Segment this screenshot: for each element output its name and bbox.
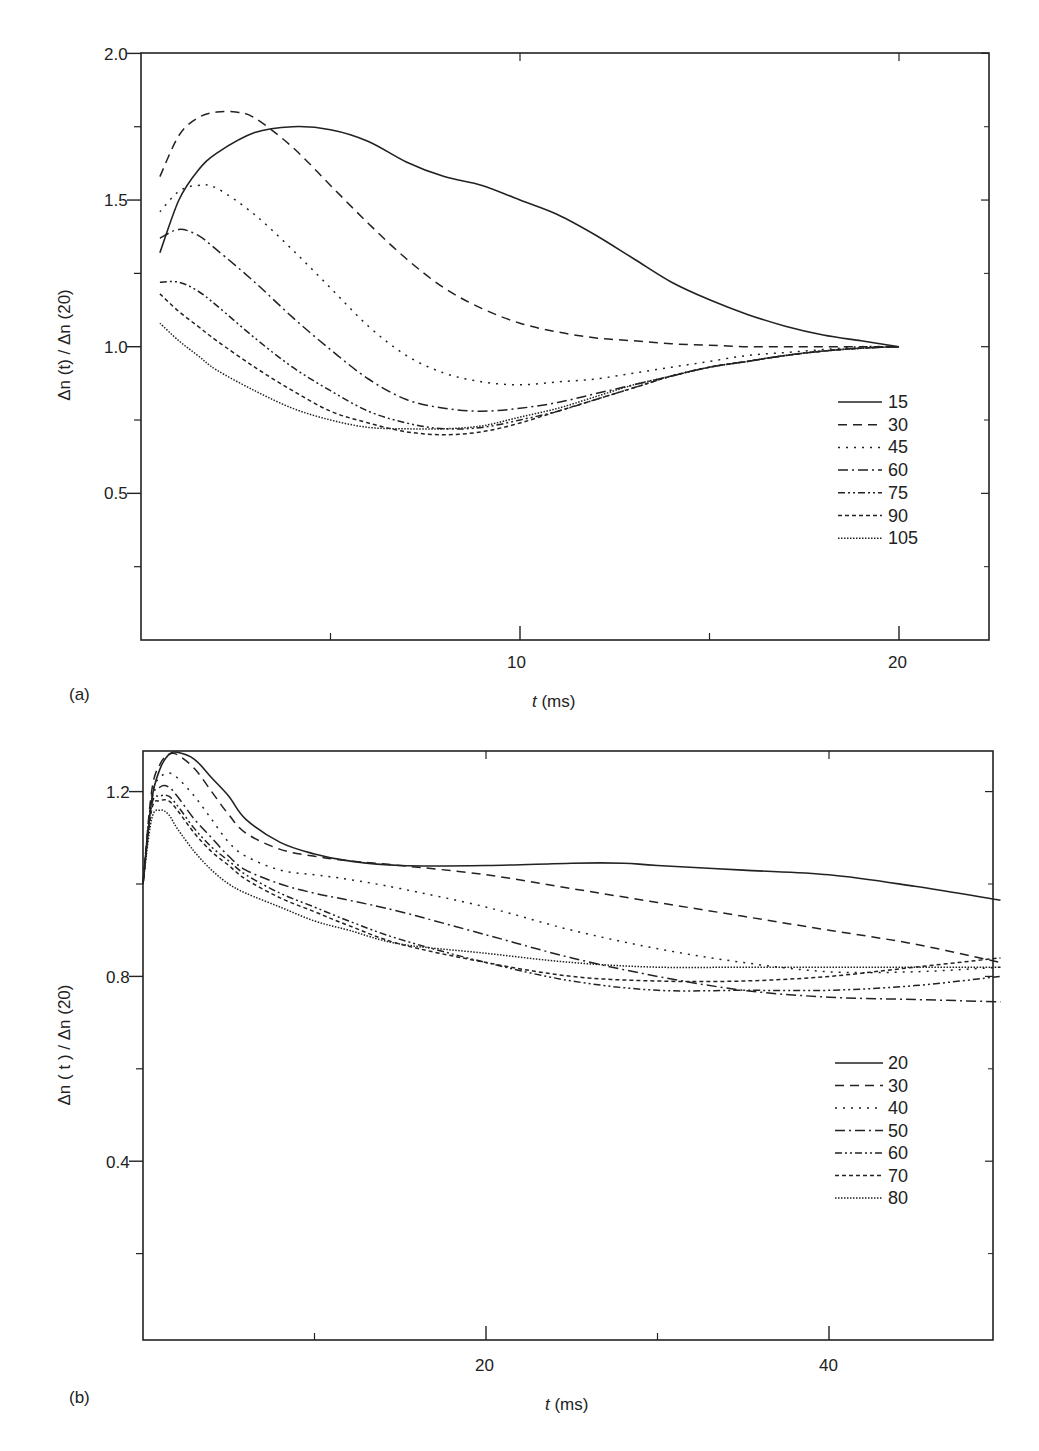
panel-label-b: (b) [69, 1388, 90, 1407]
legend-label: 30 [888, 1076, 908, 1096]
series-group-b [143, 752, 1001, 1002]
series-line-30 [143, 753, 1001, 962]
series-line-30 [160, 111, 899, 346]
legend-label: 50 [888, 1121, 908, 1141]
series-line-90 [160, 294, 899, 435]
axis-ticks-b [129, 751, 993, 1340]
legend-label: 60 [888, 1143, 908, 1163]
legend-label: 90 [888, 506, 908, 526]
series-line-75 [160, 282, 899, 430]
ytick-label: 1.0 [104, 338, 128, 357]
legend-label: 105 [888, 528, 918, 548]
y-axis-title-b: Δn ( t ) / Δn (20) [55, 985, 74, 1106]
series-line-70 [143, 800, 1001, 982]
xtick-label: 40 [819, 1356, 838, 1375]
ytick-label: 0.4 [106, 1153, 130, 1172]
figure: 153045607590105 2.0 1.5 1.0 0.5 10 20 t … [0, 0, 1039, 1451]
legend-label: 20 [888, 1053, 908, 1073]
legend-a: 153045607590105 [838, 392, 918, 548]
legend-label: 45 [888, 437, 908, 457]
series-line-105 [160, 323, 899, 429]
x-axis-title-a: t (ms) [532, 692, 575, 711]
xtick-label: 20 [475, 1356, 494, 1375]
chart-panel-a: 153045607590105 2.0 1.5 1.0 0.5 10 20 t … [55, 45, 989, 711]
x-axis-unit: (ms) [550, 1395, 589, 1414]
xtick-label: 20 [888, 653, 907, 672]
plot-frame-b [143, 751, 993, 1340]
legend-label: 80 [888, 1188, 908, 1208]
series-group-a [160, 111, 899, 434]
ytick-label: 2.0 [104, 45, 128, 64]
y-axis-title-a: Δn (t) / Δn (20) [55, 289, 74, 401]
series-line-40 [143, 773, 1001, 973]
series-line-60 [143, 795, 1001, 991]
ytick-label: 1.2 [106, 783, 130, 802]
x-axis-title-b: t (ms) [545, 1395, 588, 1414]
panel-label-a: (a) [69, 685, 90, 704]
ytick-label: 0.5 [104, 484, 128, 503]
legend-label: 40 [888, 1098, 908, 1118]
legend-label: 75 [888, 483, 908, 503]
xtick-label: 10 [507, 653, 526, 672]
legend-label: 60 [888, 460, 908, 480]
legend-label: 30 [888, 415, 908, 435]
chart-panel-b: 20304050607080 1.2 0.8 0.4 20 40 t (ms) … [55, 751, 1001, 1414]
series-line-15 [160, 127, 899, 347]
x-axis-unit: (ms) [537, 692, 576, 711]
legend-label: 15 [888, 392, 908, 412]
ytick-label: 1.5 [104, 191, 128, 210]
legend-b: 20304050607080 [835, 1053, 908, 1208]
ytick-label: 0.8 [106, 968, 130, 987]
legend-label: 70 [888, 1166, 908, 1186]
series-line-20 [143, 752, 1001, 900]
